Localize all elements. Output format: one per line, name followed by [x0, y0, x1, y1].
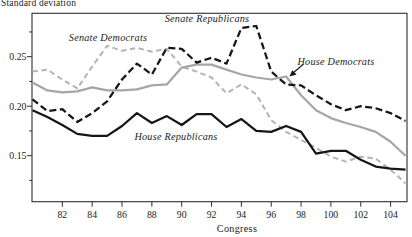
series-label-house-republicans: House Republicans [133, 131, 217, 142]
series-label-senate-republicans: Senate Republicans [165, 13, 250, 24]
polarization-line-chart: Standard deviation 828486889092949698100… [0, 0, 412, 237]
x-axis-tick-label: 96 [266, 209, 276, 220]
x-axis-tick-label: 100 [324, 209, 339, 220]
series-label-senate-democrats: Senate Democrats [69, 32, 147, 43]
x-axis-title: Congress [217, 223, 257, 234]
x-axis-tick-label: 94 [236, 209, 246, 220]
x-axis-tick-label: 98 [296, 209, 306, 220]
x-axis-tick-label: 82 [57, 209, 67, 220]
series-line-house-republicans [33, 110, 406, 169]
y-axis-tick-label: 0.25 [9, 51, 26, 62]
x-axis-tick-label: 104 [383, 209, 398, 220]
y-axis-tick-label: 0.20 [9, 101, 26, 112]
y-axis-title: Standard deviation [1, 0, 76, 8]
chart-container: Standard deviation 828486889092949698100… [0, 0, 412, 237]
x-axis-tick-label: 88 [147, 209, 157, 220]
x-axis-tick-label: 92 [207, 209, 217, 220]
house-democrats-arrow [290, 65, 304, 77]
x-axis-tick-label: 102 [353, 209, 368, 220]
series-label-house-democrats: House Democrats [296, 56, 374, 67]
x-axis-tick-label: 90 [177, 209, 187, 220]
x-axis-tick-label: 86 [117, 209, 127, 220]
series-lines [33, 26, 406, 183]
y-axis-tick-label: 0.15 [9, 150, 26, 161]
x-axis-tick-label: 84 [87, 209, 97, 220]
